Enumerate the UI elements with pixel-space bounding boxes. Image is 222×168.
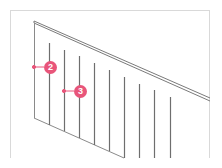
- callout-badge-3: 3: [74, 85, 87, 98]
- railing-drawing: [0, 0, 222, 168]
- balusters: [50, 43, 171, 158]
- callout-badge-2: 2: [44, 61, 57, 74]
- callout-2-dot: [32, 65, 35, 68]
- handrail-bottom-line: [34, 23, 210, 101]
- handrail-top-line: [34, 21, 210, 98]
- callout-3-dot: [62, 89, 65, 92]
